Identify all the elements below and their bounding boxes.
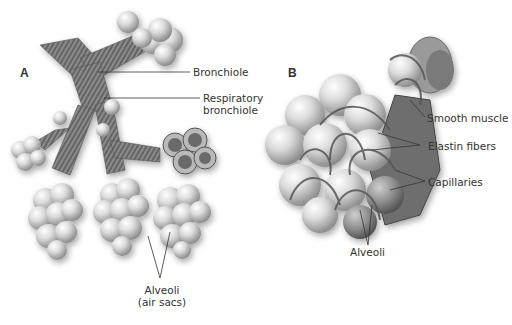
label-alveoli-b: Alveoli bbox=[350, 246, 385, 258]
label-respiratory-bronchiole-line2: bronchiole bbox=[203, 104, 263, 116]
label-respiratory-bronchiole: Respiratory bronchiole bbox=[203, 92, 263, 116]
label-capillaries: Capillaries bbox=[428, 176, 483, 188]
panel-b-letter: B bbox=[288, 66, 297, 80]
panel-a-bronchial-tree bbox=[11, 11, 216, 260]
label-elastin-fibers: Elastin fibers bbox=[428, 140, 496, 152]
label-respiratory-bronchiole-line1: Respiratory bbox=[203, 92, 263, 104]
label-smooth-muscle: Smooth muscle bbox=[427, 112, 508, 124]
label-bronchiole: Bronchiole bbox=[193, 66, 249, 78]
label-alveoli-line1: Alveoli bbox=[132, 284, 192, 296]
alveolar-cross-section bbox=[163, 128, 216, 174]
illustration bbox=[0, 0, 512, 325]
label-alveoli-air-sacs: Alveoli (air sacs) bbox=[132, 284, 192, 308]
panel-a-letter: A bbox=[20, 66, 29, 80]
label-alveoli-line2: (air sacs) bbox=[132, 296, 192, 308]
